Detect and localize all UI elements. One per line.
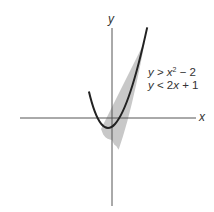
inequality-annotation: y > x2 − 2 y < 2x + 1 [148, 66, 199, 92]
y-axis-label: y [108, 13, 114, 25]
inequality-1: y > x2 − 2 [148, 66, 199, 79]
x-axis-label: x [199, 111, 205, 123]
inequality-graph: y x y > x2 − 2 y < 2x + 1 [0, 0, 214, 212]
shaded-region [101, 41, 145, 150]
graph-canvas [0, 0, 214, 212]
inequality-2: y < 2x + 1 [148, 79, 199, 92]
